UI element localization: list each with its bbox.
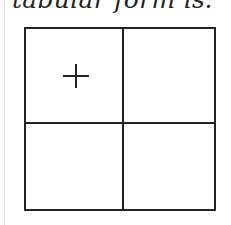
cell-top-left xyxy=(26,29,122,122)
cell-bottom-left xyxy=(26,124,122,209)
page-margin-rule xyxy=(4,0,5,225)
cell-top-right xyxy=(124,29,214,122)
caption-text: tabular form is: xyxy=(12,0,214,14)
plus-icon xyxy=(63,64,89,88)
cell-bottom-right xyxy=(124,124,214,209)
two-by-two-table xyxy=(24,27,216,211)
